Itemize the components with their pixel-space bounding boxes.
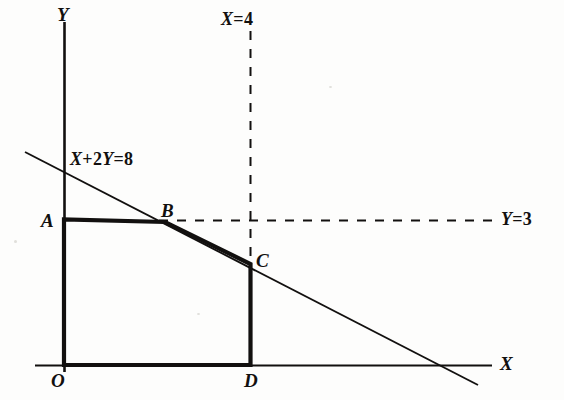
constraint-label-y-equals-3: Y=3 bbox=[501, 210, 532, 228]
figure-canvas: Y X X=4 Y=3 X+2Y=8 O A B C D bbox=[0, 0, 564, 400]
feasible-region-polygon bbox=[64, 220, 251, 366]
constraint-label-y-equals-3-var: Y bbox=[501, 209, 512, 229]
vertex-label-o: O bbox=[51, 371, 65, 390]
constraint-label-x-equals-4-var: X bbox=[221, 9, 233, 29]
eq-var1: X bbox=[70, 149, 82, 169]
constraint-label-x-equals-4-equals: = bbox=[233, 9, 244, 29]
vertex-label-b: B bbox=[161, 201, 174, 220]
constraint-label-y-equals-3-value: 3 bbox=[523, 209, 532, 229]
constraint-label-y-equals-3-equals: = bbox=[512, 209, 523, 229]
graph-svg bbox=[0, 0, 564, 400]
vertex-label-c: C bbox=[256, 251, 269, 270]
y-axis-label: Y bbox=[57, 5, 69, 24]
constraint-label-x-plus-2y-equals-8: X+2Y=8 bbox=[70, 150, 133, 168]
constraint-label-x-equals-4-value: 4 bbox=[244, 9, 253, 29]
scan-speck bbox=[14, 240, 17, 243]
scan-speck bbox=[197, 313, 200, 315]
eq-plus: + bbox=[82, 149, 93, 169]
constraint-label-x-equals-4: X=4 bbox=[221, 10, 253, 28]
scan-speck bbox=[329, 86, 332, 88]
vertex-label-d: D bbox=[244, 371, 258, 390]
eq-equals: = bbox=[113, 149, 124, 169]
x-axis-label: X bbox=[500, 354, 513, 373]
eq-coef: 2 bbox=[93, 149, 102, 169]
eq-var2: Y bbox=[102, 149, 113, 169]
eq-value: 8 bbox=[124, 149, 133, 169]
vertex-label-a: A bbox=[41, 211, 54, 230]
